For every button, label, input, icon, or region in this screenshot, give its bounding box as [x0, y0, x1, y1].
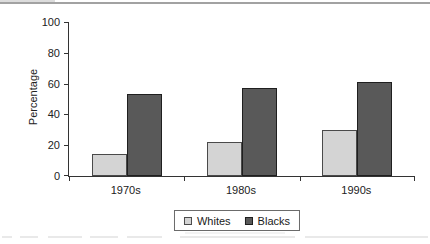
y-axis-tick	[64, 175, 68, 176]
y-tick-label: 60	[30, 78, 60, 90]
scan-artifact	[127, 236, 162, 238]
x-axis-label-1980s: 1980s	[183, 184, 298, 196]
y-axis-tick	[64, 22, 68, 23]
scan-artifact	[185, 232, 285, 234]
bar-whites-1970s	[92, 154, 127, 176]
legend-label-blacks: Blacks	[258, 215, 290, 227]
x-axis-tick	[300, 177, 301, 181]
scan-artifact	[48, 236, 82, 238]
x-axis-tick	[184, 177, 185, 181]
top-divider-rule	[0, 2, 430, 4]
y-tick-label: 0	[30, 170, 60, 182]
y-tick-label: 100	[30, 16, 60, 28]
x-axis-tick	[69, 177, 70, 181]
y-axis-tick	[64, 114, 68, 115]
legend-swatch-blacks	[245, 217, 253, 225]
bar-whites-1990s	[322, 130, 357, 176]
scan-artifact	[180, 236, 295, 238]
y-axis-tick	[64, 53, 68, 54]
plot-area	[68, 22, 415, 177]
bar-whites-1980s	[207, 142, 242, 176]
y-tick-label: 40	[30, 108, 60, 120]
y-tick-label: 20	[30, 139, 60, 151]
x-axis-label-1990s: 1990s	[299, 184, 414, 196]
bar-blacks-1980s	[242, 88, 277, 176]
y-axis-tick	[64, 84, 68, 85]
x-axis-label-1970s: 1970s	[68, 184, 183, 196]
legend: Whites Blacks	[174, 210, 300, 231]
y-axis-tick	[64, 145, 68, 146]
x-axis-tick	[414, 177, 415, 181]
scan-artifact	[20, 236, 38, 238]
scan-artifact	[90, 236, 118, 238]
x-axis-labels: 1970s 1980s 1990s	[68, 184, 414, 196]
legend-label-whites: Whites	[197, 215, 231, 227]
legend-item-blacks: Blacks	[245, 215, 290, 227]
legend-swatch-whites	[184, 217, 192, 225]
scan-artifact	[305, 236, 428, 238]
scan-artifact	[2, 236, 12, 238]
scanned-page: Percentage 100 80 60 40 20 0 1970s 1980s…	[0, 0, 430, 244]
bar-blacks-1970s	[127, 94, 162, 176]
bar-blacks-1990s	[357, 82, 392, 176]
y-tick-label: 80	[30, 47, 60, 59]
legend-item-whites: Whites	[184, 215, 231, 227]
